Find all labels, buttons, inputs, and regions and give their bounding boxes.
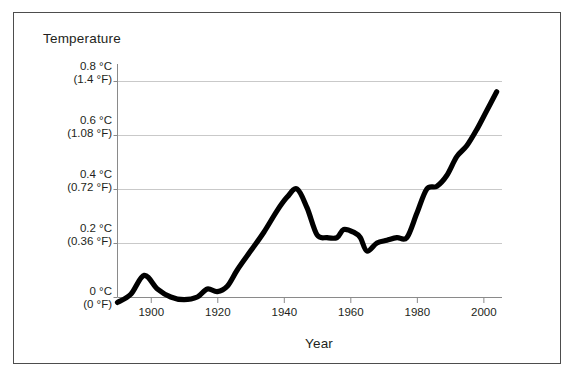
x-axis-title-text: Year bbox=[305, 336, 333, 351]
x-tick-label: 1920 bbox=[205, 306, 231, 318]
chart-plot-area: Temperature 0.8 °C (1.4 °F) 0.6 °C (1.08… bbox=[0, 0, 578, 382]
chart-svg bbox=[0, 0, 578, 382]
x-tick-label: 1900 bbox=[138, 306, 164, 318]
x-tick-label: 1980 bbox=[405, 306, 431, 318]
x-tick-label: 1940 bbox=[272, 306, 298, 318]
temperature-line bbox=[118, 92, 497, 303]
x-tick-label: 2000 bbox=[471, 306, 497, 318]
x-tick-label: 1960 bbox=[338, 306, 364, 318]
gridlines bbox=[114, 82, 503, 298]
x-axis-title: Year bbox=[0, 336, 578, 351]
